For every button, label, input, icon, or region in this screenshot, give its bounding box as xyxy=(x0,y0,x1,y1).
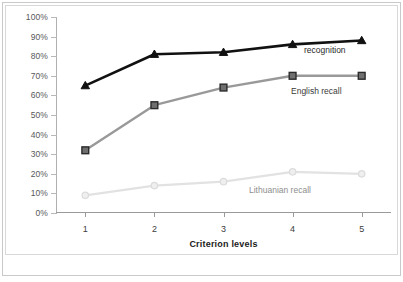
y-tick-label: 80% xyxy=(31,51,48,61)
x-tick-label: 1 xyxy=(83,224,88,234)
y-tick-label: 40% xyxy=(31,130,48,140)
x-axis-title: Criterion levels xyxy=(57,239,390,249)
series-label-recognition: recognition xyxy=(304,45,346,55)
y-tick-label: 60% xyxy=(31,90,48,100)
x-tick xyxy=(85,212,86,217)
x-tick-label: 2 xyxy=(152,224,157,234)
series-label-lithuanian-recall: Lithuanian recall xyxy=(249,185,311,195)
chart-figure: 0%10%20%30%40%50%60%70%80%90%100% 12345 … xyxy=(0,0,403,282)
x-tick-label: 3 xyxy=(221,224,226,234)
x-tick xyxy=(293,212,294,217)
y-tick-label: 70% xyxy=(31,71,48,81)
x-tick-label: 5 xyxy=(359,224,364,234)
series-label-english-recall: English recall xyxy=(291,86,342,96)
x-tick xyxy=(154,212,155,217)
y-tick-label: 10% xyxy=(31,188,48,198)
series-lithuanian-recall xyxy=(82,169,365,199)
series-english-recall xyxy=(82,72,365,153)
x-tick xyxy=(224,212,225,217)
y-tick-label: 50% xyxy=(31,110,48,120)
x-tick-label: 4 xyxy=(290,224,295,234)
y-tick-label: 90% xyxy=(31,32,48,42)
y-tick-label: 20% xyxy=(31,169,48,179)
x-tick xyxy=(362,212,363,217)
y-tick xyxy=(51,213,57,214)
y-tick-label: 0% xyxy=(36,208,49,218)
y-tick-label: 100% xyxy=(26,12,48,22)
y-tick-label: 30% xyxy=(31,149,48,159)
